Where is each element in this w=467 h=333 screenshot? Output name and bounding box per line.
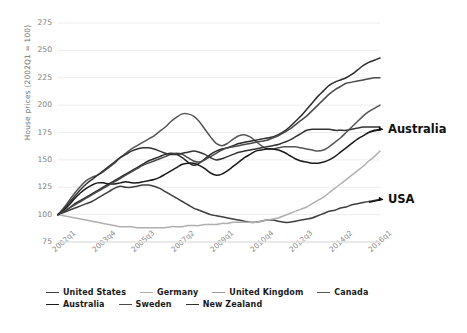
series-line-australia [58,129,380,214]
annotation-arrowhead-usa [379,197,383,202]
legend-line-icon [317,292,330,293]
legend-row-1: United StatesGermanyUnited KingdomCanada [46,287,446,298]
series-line-sweden [58,78,380,215]
legend-item-australia[interactable]: Australia [46,300,105,309]
legend-item-germany[interactable]: Germany [140,288,198,297]
legend-item-new-zealand[interactable]: New Zealand [186,300,263,309]
legend-line-icon [46,304,59,305]
legend-label: Germany [157,288,198,297]
chart-legend: United StatesGermanyUnited KingdomCanada… [46,287,446,311]
plot-area [0,0,467,333]
legend-item-united-kingdom[interactable]: United Kingdom [212,288,303,297]
annotation-arrowhead-australia [379,127,383,132]
series-line-new-zealand [58,127,380,215]
annotation-label-usa: USA [388,192,415,206]
house-prices-chart: House prices (2002Q1 = 100) 275250225200… [0,0,467,333]
legend-line-icon [212,292,225,293]
legend-label: Australia [63,300,105,309]
legend-label: United Kingdom [229,288,303,297]
legend-line-icon [140,292,153,293]
legend-row-2: AustraliaSwedenNew Zealand [46,299,446,310]
legend-label: Sweden [136,300,172,309]
legend-line-icon [46,292,59,293]
legend-line-icon [119,304,132,305]
legend-item-sweden[interactable]: Sweden [119,300,172,309]
legend-label: United States [63,288,126,297]
annotation-label-australia: Australia [388,122,447,136]
legend-item-united-states[interactable]: United States [46,288,126,297]
legend-label: New Zealand [203,300,263,309]
legend-item-canada[interactable]: Canada [317,288,368,297]
legend-line-icon [186,304,199,305]
legend-label: Canada [334,288,368,297]
